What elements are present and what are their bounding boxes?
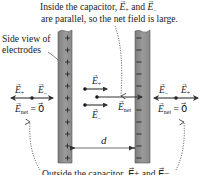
top-caption-leader [115, 26, 122, 96]
left-e-plus-label: E+ [15, 85, 24, 98]
right-e-net-label: Enet = 0⃗ [158, 104, 187, 117]
right-e-plus-label: E+ [181, 85, 190, 98]
bottom-leader-right [176, 122, 184, 170]
right-e-minus-label: E− [159, 85, 168, 98]
left-e-minus-label: E− [38, 85, 47, 98]
capacitor-field-diagram: Inside the capacitor, E+ and E− are para… [0, 0, 201, 175]
left-plate-positive [58, 30, 72, 163]
inside-e-plus-label: E+ [92, 76, 101, 89]
separation-dimension [73, 147, 136, 149]
side-label-pointer [48, 52, 58, 60]
separation-label: d [101, 135, 107, 145]
inside-e-minus-label: E− [92, 110, 101, 123]
bottom-leader-left [30, 122, 40, 170]
bottom-caption-partial: Outside the capacitor, E⃗+ and E⃗− [42, 168, 169, 175]
inside-e-net-label: Enet [118, 102, 131, 115]
left-e-net-label: Enet = 0⃗ [15, 104, 44, 117]
